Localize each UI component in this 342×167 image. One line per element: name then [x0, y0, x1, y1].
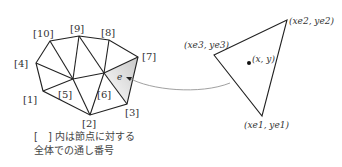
node-label-4: [4]: [14, 58, 28, 69]
vertex1-label: (xe1, ye1): [244, 120, 289, 130]
element-label-e: e: [117, 72, 122, 82]
node-label-6: [6]: [97, 89, 111, 100]
caption-line-1: [ ] 内は節点に対する: [34, 130, 135, 144]
node-label-3: [3]: [125, 107, 139, 118]
node-label-5: [5]: [58, 89, 72, 100]
node-label-9: [9]: [70, 23, 84, 34]
element-triangle: [214, 20, 287, 116]
point-xy-dot: [247, 61, 251, 65]
node-label-10: [10]: [33, 28, 54, 39]
vertex3-label: (xe3, ye3): [184, 40, 229, 50]
vertex2-label: (xe2, ye2): [289, 16, 334, 26]
caption-line-2: 全体での通し番号: [34, 144, 135, 158]
node-label-2: [2]: [82, 118, 96, 129]
caption: [ ] 内は節点に対する 全体での通し番号: [34, 130, 135, 158]
node-label-8: [8]: [101, 27, 115, 38]
node-label-1: [1]: [23, 94, 37, 105]
node-label-7: [7]: [142, 51, 156, 62]
point-xy-label: (x, y): [252, 54, 275, 64]
connector-curve: [129, 78, 230, 90]
